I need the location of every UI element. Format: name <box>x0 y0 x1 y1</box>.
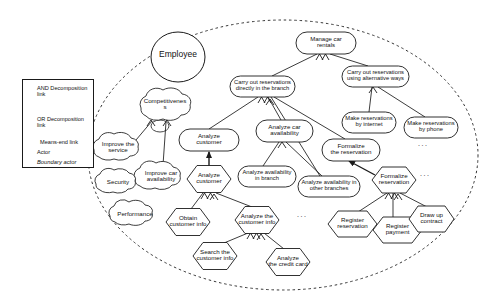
goal-carry-out-reservations-branch[interactable] <box>230 76 295 97</box>
ellipsis-mark-formalize: ... <box>420 170 430 177</box>
link-fr-to-draw-up-contract <box>400 193 427 207</box>
link-improve-car-avail-to-competitiveness <box>163 122 166 165</box>
legend-label-and-decomposition: AND Decomposition link <box>37 86 93 98</box>
softgoal-improve-the-service[interactable] <box>93 132 138 160</box>
goal-analyze-availability-other-branches[interactable] <box>298 176 360 197</box>
goal-make-reservations-internet[interactable] <box>342 112 396 133</box>
link-ac-to-obtain <box>191 193 203 209</box>
task-analyze-the-customer-info[interactable] <box>235 207 279 234</box>
softgoals-group <box>93 88 191 225</box>
legend-label-actor: Actor <box>37 150 91 156</box>
link-branch-to-analyze-customer <box>209 97 258 129</box>
softgoal-performance[interactable] <box>109 200 153 226</box>
task-obtain-customer-info[interactable] <box>166 209 210 236</box>
goal-analyze-availability-in-branch[interactable] <box>238 166 296 187</box>
link-fr-to-register-reservation <box>358 193 387 212</box>
contrib-loop <box>151 120 169 132</box>
goal-make-reservations-phone[interactable] <box>404 117 458 138</box>
task-analyze-the-credit-card[interactable] <box>266 249 310 276</box>
and-dec-mark-manage <box>316 54 329 60</box>
legend-label-boundary-actor: Boundary actor <box>37 159 93 165</box>
legend-label-means-end: Means-end link <box>40 140 94 146</box>
goal-analyze-customer[interactable] <box>179 129 239 151</box>
softgoal-security[interactable] <box>95 168 136 193</box>
goal-analyze-car-availability[interactable] <box>256 120 313 142</box>
legend-label-or-decomposition: OR Decomposition link <box>37 117 93 129</box>
or-dec-mark-aci <box>257 234 265 240</box>
link-ac-to-analyzeinfo <box>216 193 252 207</box>
ellipsis-mark-customer-info: ... <box>297 211 307 218</box>
link-aci-to-search <box>224 233 248 243</box>
softgoal-improve-car-availability[interactable] <box>134 161 180 189</box>
link-manage-to-branch <box>272 54 317 76</box>
link-manage-to-alternative <box>330 54 368 66</box>
task-analyze-customer[interactable] <box>187 166 231 193</box>
softgoal-competitiveness[interactable] <box>140 88 191 120</box>
goal-carry-out-reservations-alternative[interactable] <box>342 66 409 87</box>
link-means-end-formalize <box>349 161 375 175</box>
task-formalize-reservation[interactable] <box>372 167 416 193</box>
link-caravail-to-inbranch <box>263 142 279 166</box>
ellipsis-mark-phone: ... <box>418 140 428 147</box>
goal-manage-car-rentals[interactable] <box>296 32 356 54</box>
or-dec-mark-alt <box>369 87 377 93</box>
task-register-reservation[interactable] <box>328 211 377 237</box>
task-search-the-customer-info[interactable] <box>193 243 237 270</box>
link-improve-service-to-competitiveness <box>136 121 152 140</box>
task-draw-up-contract[interactable] <box>409 206 454 232</box>
or-dec-mark-caravail <box>278 142 286 148</box>
actor-employee-circle[interactable] <box>151 32 205 82</box>
and-dec-mark-analyze-customer <box>201 193 214 199</box>
goal-model-diagram: Employee AND Decomposition link OR Decom… <box>0 0 492 301</box>
link-aci-to-credit <box>264 233 284 249</box>
and-dec-mark-formalize-task <box>385 193 398 199</box>
goal-formalize-the-reservation[interactable] <box>322 139 380 161</box>
